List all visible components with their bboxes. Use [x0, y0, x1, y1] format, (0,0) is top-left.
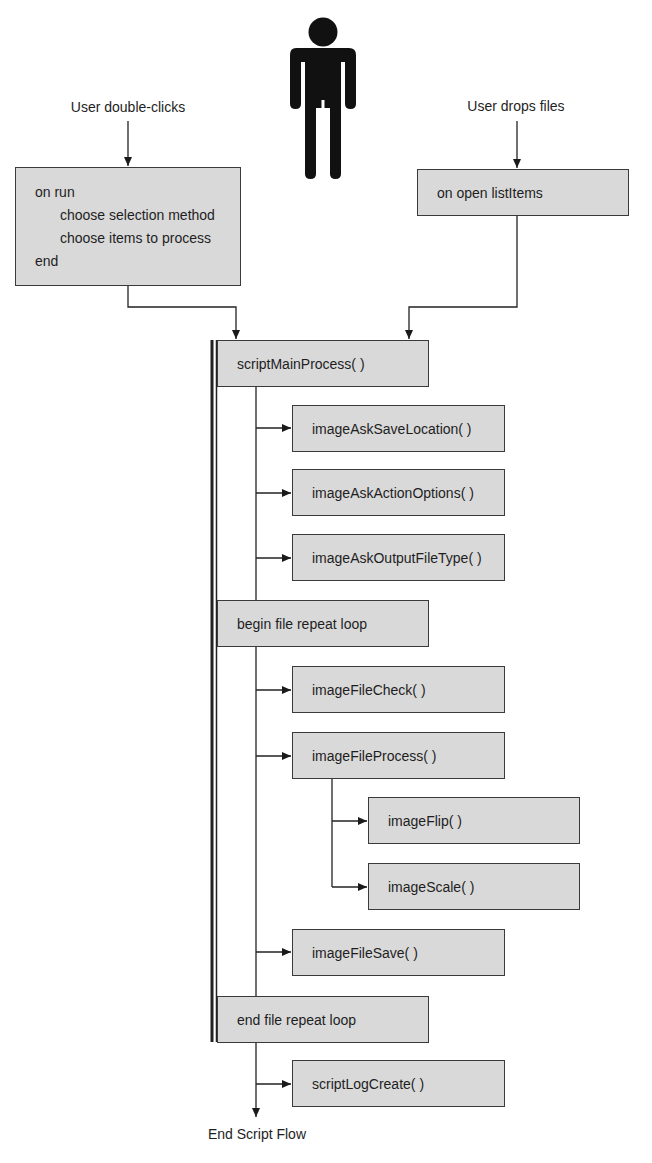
trigger-double-click-label: User double-clicks: [71, 99, 185, 115]
ask-output-file-type-label: imageAskOutputFileType( ): [312, 550, 482, 566]
script-flow-diagram: User double-clicks User drops files on r…: [0, 0, 652, 1163]
file-check-box: imageFileCheck( ): [292, 666, 505, 713]
ask-action-options-label: imageAskActionOptions( ): [312, 485, 474, 501]
file-check-label: imageFileCheck( ): [312, 682, 426, 698]
end-loop-label: end file repeat loop: [237, 1012, 356, 1028]
ask-output-file-type-box: imageAskOutputFileType( ): [292, 534, 505, 581]
on-open-handler-box: on open listItems: [417, 169, 629, 216]
trigger-drop-files-label: User drops files: [467, 98, 564, 114]
image-flip-box: imageFlip( ): [368, 797, 580, 844]
on-run-handler-box: on run choose selection method choose it…: [15, 167, 241, 286]
on-open-label: on open listItems: [437, 185, 543, 201]
begin-loop-label: begin file repeat loop: [237, 616, 367, 632]
ask-save-location-box: imageAskSaveLocation( ): [292, 405, 505, 452]
script-main-process-box: scriptMainProcess( ): [217, 340, 429, 387]
file-save-label: imageFileSave( ): [312, 945, 418, 961]
log-create-label: scriptLogCreate( ): [312, 1076, 424, 1092]
log-create-box: scriptLogCreate( ): [292, 1060, 505, 1107]
on-run-line: on run: [35, 181, 75, 204]
end-line: end: [35, 250, 58, 273]
end-script-flow-label: End Script Flow: [208, 1126, 306, 1142]
choose-selection-method-line: choose selection method: [35, 204, 215, 227]
choose-items-line: choose items to process: [35, 227, 211, 250]
image-scale-box: imageScale( ): [368, 863, 580, 910]
ask-action-options-box: imageAskActionOptions( ): [292, 469, 505, 516]
file-process-label: imageFileProcess( ): [312, 748, 436, 764]
ask-save-location-label: imageAskSaveLocation( ): [312, 421, 472, 437]
end-loop-box: end file repeat loop: [217, 996, 429, 1043]
image-scale-label: imageScale( ): [388, 879, 474, 895]
script-main-process-label: scriptMainProcess( ): [237, 356, 365, 372]
begin-loop-box: begin file repeat loop: [217, 600, 429, 647]
person-icon: [288, 16, 358, 181]
image-flip-label: imageFlip( ): [388, 813, 462, 829]
file-save-box: imageFileSave( ): [292, 929, 505, 976]
file-process-box: imageFileProcess( ): [292, 732, 505, 779]
